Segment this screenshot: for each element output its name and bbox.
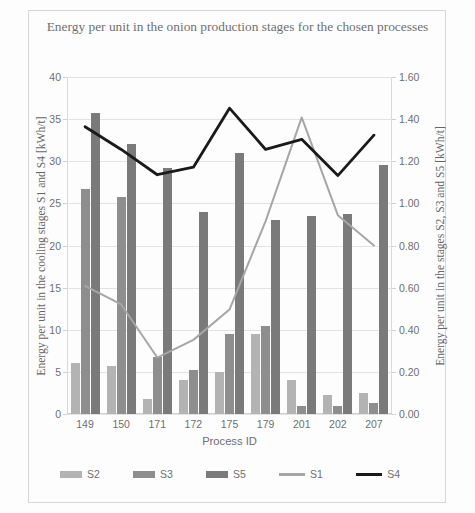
x-tick-label: 172	[185, 418, 203, 430]
y-tick-primary: 20	[49, 241, 61, 251]
tick-mark	[392, 246, 396, 247]
tick-mark	[392, 330, 396, 331]
legend-label: S4	[387, 468, 400, 480]
tick-mark	[63, 414, 67, 415]
y-tick-secondary: 0.20	[399, 367, 419, 377]
x-tick-label: 201	[293, 418, 311, 430]
tick-mark	[392, 161, 396, 162]
legend-item-s2[interactable]: S2	[60, 468, 100, 480]
x-tick-label: 150	[112, 418, 130, 430]
chart-page: Energy per unit in the onion production …	[0, 0, 475, 513]
y-tick-secondary: 1.20	[399, 156, 419, 166]
x-tick-label: 149	[76, 418, 94, 430]
legend-label: S5	[233, 468, 246, 480]
gridline	[67, 414, 392, 415]
y-tick-secondary: 1.60	[399, 72, 419, 82]
y-axis-title-secondary-label: Energy per unit in the stages S2, S3 and…	[434, 126, 447, 366]
y-tick-secondary: 0.60	[399, 283, 419, 293]
y-axis-title-primary-label: Energy per unit in the cooling stages S1…	[35, 116, 48, 375]
x-tick-labels: 149150171172175179201202207	[67, 418, 392, 434]
y-tick-primary: 0	[55, 409, 61, 419]
legend-line-icon	[279, 473, 305, 476]
x-tick-label: 175	[221, 418, 239, 430]
tick-mark	[392, 203, 396, 204]
chart-title: Energy per unit in the onion production …	[40, 18, 435, 36]
legend-label: S2	[87, 468, 100, 480]
y-tick-secondary: 1.40	[399, 114, 419, 124]
x-tick-label: 207	[365, 418, 383, 430]
plot-area: 0510152025303540 0.000.200.400.600.801.0…	[67, 77, 392, 414]
tick-mark	[392, 414, 396, 415]
y-tick-primary: 40	[49, 72, 61, 82]
y-tick-primary: 5	[55, 367, 61, 377]
legend-item-s4[interactable]: S4	[356, 468, 400, 480]
y-tick-primary: 30	[49, 156, 61, 166]
x-tick-label: 202	[329, 418, 347, 430]
y-tick-primary: 35	[49, 114, 61, 124]
x-axis-title: Process ID	[67, 435, 392, 447]
legend-item-s5[interactable]: S5	[206, 468, 246, 480]
line-series-container	[67, 77, 392, 414]
tick-mark	[392, 372, 396, 373]
chart-legend: S2S3S5S1S4	[60, 468, 400, 480]
y-tick-primary: 25	[49, 198, 61, 208]
x-tick-label: 179	[257, 418, 275, 430]
legend-label: S1	[310, 468, 323, 480]
legend-swatch-icon	[60, 471, 82, 478]
legend-item-s3[interactable]: S3	[133, 468, 173, 480]
x-tick-label: 171	[149, 418, 167, 430]
y-tick-secondary: 0.40	[399, 325, 419, 335]
y-axis-title-secondary: Energy per unit in the stages S2, S3 and…	[432, 77, 448, 414]
tick-mark	[392, 77, 396, 78]
legend-swatch-icon	[133, 471, 155, 478]
legend-line-icon	[356, 473, 382, 476]
tick-mark	[392, 119, 396, 120]
legend-item-s1[interactable]: S1	[279, 468, 323, 480]
line-s4	[85, 108, 374, 175]
legend-swatch-icon	[206, 471, 228, 478]
legend-label: S3	[160, 468, 173, 480]
tick-mark	[392, 288, 396, 289]
y-tick-secondary: 0.00	[399, 409, 419, 419]
y-axis-title-primary: Energy per unit in the cooling stages S1…	[33, 77, 49, 414]
y-tick-primary: 15	[49, 283, 61, 293]
y-tick-secondary: 0.80	[399, 241, 419, 251]
y-tick-primary: 10	[49, 325, 61, 335]
y-tick-secondary: 1.00	[399, 198, 419, 208]
